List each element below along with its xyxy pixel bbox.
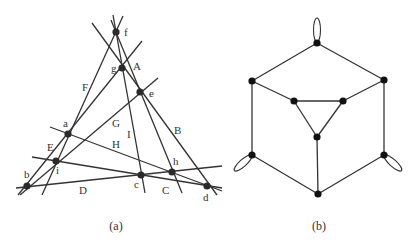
edge-inner-left-inner-bottom: [294, 101, 317, 137]
line-F: [42, 16, 123, 195]
vertex-upper-right: [380, 76, 387, 83]
edge-top-upper-right: [317, 43, 384, 80]
edge-lower-right-bottom: [318, 155, 384, 194]
point-e: [136, 88, 143, 95]
vertex-bottom: [314, 190, 321, 197]
vertex-lower-right: [380, 151, 387, 158]
point-label-i: i: [56, 164, 59, 176]
point-label-e: e: [149, 87, 154, 99]
line-D: [16, 166, 222, 188]
figure-a-nodes: [23, 28, 210, 189]
self-loop-top: [314, 18, 321, 42]
edge-upper-left-inner-left: [252, 81, 294, 101]
point-label-d: d: [203, 191, 209, 203]
point-b: [23, 182, 30, 189]
line-label-H: H: [112, 138, 120, 150]
edge-inner-bottom-bottom: [317, 137, 318, 194]
figure-b-edges: [252, 43, 384, 194]
point-label-g: g: [111, 62, 117, 74]
line-C: [111, 20, 182, 193]
point-label-c: c: [134, 178, 139, 190]
edge-top-upper-left: [252, 43, 317, 81]
figure-canvas: FICABGHEDfgeaibchd (a) (b): [0, 0, 414, 243]
line-label-E: E: [47, 141, 54, 153]
vertex-inner-left: [290, 97, 297, 104]
vertex-lower-left: [248, 151, 255, 158]
point-f: [112, 28, 119, 35]
point-label-a: a: [63, 117, 68, 129]
vertex-upper-left: [248, 77, 255, 84]
point-g: [118, 64, 125, 71]
line-label-D: D: [79, 184, 87, 196]
line-label-I: I: [127, 128, 131, 140]
line-label-G: G: [112, 117, 120, 129]
line-label-B: B: [174, 124, 181, 136]
edge-inner-right-inner-bottom: [317, 101, 343, 137]
figure-b-graph: (b): [232, 18, 404, 233]
figure-a-line-arrangement: FICABGHEDfgeaibchd (a): [16, 15, 222, 233]
line-label-F: F: [82, 81, 88, 93]
vertex-top: [313, 39, 320, 46]
figure-b-caption: (b): [312, 219, 326, 233]
point-label-f: f: [124, 26, 128, 38]
point-d: [203, 182, 210, 189]
point-h: [168, 168, 175, 175]
edge-upper-right-inner-right: [343, 80, 384, 101]
vertex-inner-right: [339, 97, 346, 104]
line-label-A: A: [133, 60, 141, 72]
point-a: [64, 130, 71, 137]
point-label-b: b: [24, 168, 30, 180]
vertex-inner-bottom: [313, 133, 320, 140]
edge-lower-left-bottom: [252, 155, 318, 194]
line-label-C: C: [162, 184, 169, 196]
line-I: [113, 15, 145, 193]
point-label-h: h: [173, 155, 179, 167]
figure-a-caption: (a): [109, 219, 122, 233]
figure-a-lines: [16, 15, 222, 195]
